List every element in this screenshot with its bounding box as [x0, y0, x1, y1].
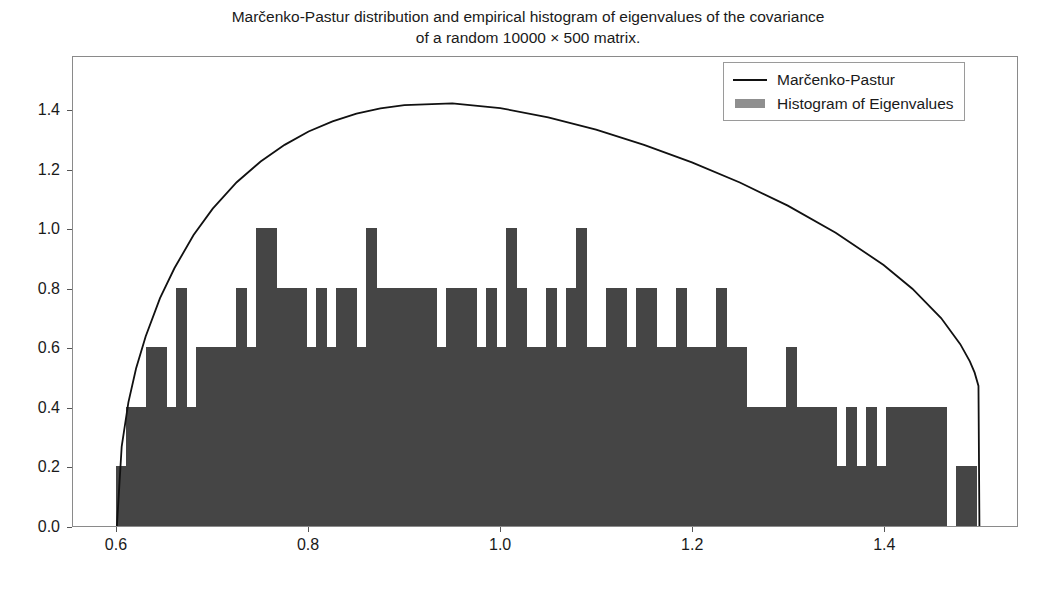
legend-label: Histogram of Eigenvalues: [777, 95, 954, 113]
x-tick-label: 0.8: [297, 536, 319, 554]
legend-key-glyph: [735, 99, 765, 108]
y-tick-label: 0.0: [14, 518, 60, 536]
plot-inner: [73, 57, 1017, 526]
y-tick-mark: [67, 527, 72, 528]
legend-item[interactable]: Histogram of Eigenvalues: [732, 93, 954, 114]
legend-key-glyph: [733, 79, 767, 81]
y-tick-label: 1.4: [14, 101, 60, 119]
x-tick-mark: [692, 527, 693, 532]
y-tick-label: 1.0: [14, 220, 60, 238]
plot-area: [72, 56, 1018, 527]
x-tick-mark: [500, 527, 501, 532]
mp-curve-path: [117, 103, 980, 526]
legend-line-icon: [732, 73, 768, 87]
y-tick-label: 1.2: [14, 161, 60, 179]
x-tick-label: 1.4: [873, 536, 895, 554]
x-tick-label: 0.6: [105, 536, 127, 554]
chart-title: Marčenko-Pastur distribution and empiric…: [0, 6, 1056, 48]
figure-container: Marčenko-Pastur distribution and empiric…: [0, 0, 1056, 593]
x-tick-mark: [884, 527, 885, 532]
legend: Marčenko-PasturHistogram of Eigenvalues: [723, 62, 965, 121]
x-tick-mark: [308, 527, 309, 532]
x-tick-label: 1.0: [489, 536, 511, 554]
y-tick-label: 0.6: [14, 339, 60, 357]
y-tick-label: 0.4: [14, 399, 60, 417]
marcenko-pastur-curve: [73, 57, 1017, 526]
y-tick-label: 0.2: [14, 458, 60, 476]
x-tick-mark: [116, 527, 117, 532]
x-tick-label: 1.2: [681, 536, 703, 554]
legend-item[interactable]: Marčenko-Pastur: [732, 69, 954, 90]
legend-patch-icon: [732, 97, 768, 111]
y-tick-label: 0.8: [14, 280, 60, 298]
legend-label: Marčenko-Pastur: [777, 71, 895, 89]
